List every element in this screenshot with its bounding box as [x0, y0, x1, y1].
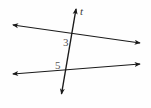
figure-canvas: [0, 0, 151, 108]
angle-label-5: 5: [55, 60, 61, 71]
lower-parallel-line: [13, 64, 140, 74]
transversal-label-t: t: [80, 6, 83, 17]
angle-label-3: 3: [63, 37, 69, 48]
transversal-line: [62, 9, 77, 94]
upper-parallel-line: [13, 25, 140, 43]
geometry-figure: t 3 5: [0, 0, 151, 108]
